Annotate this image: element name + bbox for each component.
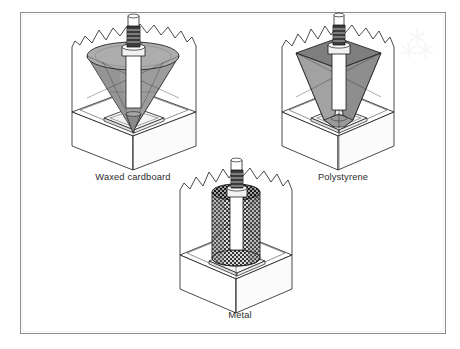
figure-illustration [0,0,460,349]
caption-waxed-cardboard: Waxed cardboard [95,172,170,182]
figure-root: ⁂ [0,0,460,349]
caption-polystyrene: Polystyrene [318,172,368,182]
panel-polystyrene [282,13,394,170]
panel-waxed-cardboard [72,14,196,170]
caption-metal: Metal [228,310,251,320]
panel-metal [180,158,292,313]
